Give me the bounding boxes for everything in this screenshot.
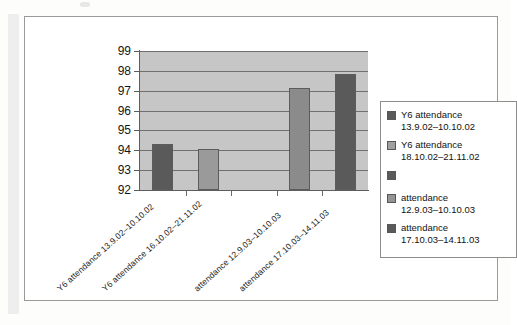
y-axis-tick-label: 92: [109, 184, 131, 196]
gridline: [140, 91, 368, 92]
legend-swatch: [387, 141, 396, 150]
bar: [198, 149, 219, 190]
gridline: [140, 130, 368, 131]
legend-swatch: [387, 224, 396, 233]
legend-item: [387, 169, 516, 180]
scan-speck-artifact: [80, 2, 90, 7]
y-axis-tick-label: 99: [109, 45, 131, 57]
scan-edge-artifact: [8, 14, 19, 314]
chart-figure-frame: 9998979695949392 Y6 attendance 13.9.02–1…: [24, 16, 498, 301]
legend-swatch: [387, 171, 396, 180]
y-axis-tick-label: 93: [109, 164, 131, 176]
legend-label-line2: 17.10.03–14.11.03: [401, 234, 480, 246]
y-axis-tick: [134, 51, 140, 52]
y-axis-tick-labels: 9998979695949392: [107, 17, 131, 217]
gridline: [140, 170, 368, 171]
y-axis-tick: [134, 111, 140, 112]
legend-label-line2: 18.10.02–21.11.02: [401, 151, 480, 163]
legend-label-line2: 12.9.03–10.10.03: [401, 204, 475, 216]
legend-label: attendance12.9.03–10.10.03: [401, 192, 475, 215]
y-axis-tick: [134, 91, 140, 92]
y-axis-tick: [134, 130, 140, 131]
x-axis-tick: [186, 191, 187, 196]
bar: [152, 144, 173, 190]
y-axis-tick-label: 96: [109, 105, 131, 117]
legend-swatch: [387, 194, 396, 203]
legend-label: Y6 attendance18.10.02–21.11.02: [401, 139, 480, 162]
x-axis-tick: [322, 191, 323, 196]
legend-swatch: [387, 111, 396, 120]
x-axis-tick: [231, 191, 232, 196]
gridline: [140, 111, 368, 112]
x-axis-category-label: attendance 17.10.03–14.11.03: [237, 207, 331, 293]
y-axis-tick: [134, 150, 140, 151]
chart-legend: Y6 attendance13.9.02–10.10.02Y6 attendan…: [380, 101, 517, 258]
y-axis-tick-label: 97: [109, 85, 131, 97]
legend-label: attendance17.10.03–14.11.03: [401, 222, 480, 245]
gridline: [140, 150, 368, 151]
y-axis-tick: [134, 71, 140, 72]
legend-item: attendance17.10.03–14.11.03: [387, 222, 516, 245]
legend-label-line2: 13.9.02–10.10.02: [401, 121, 475, 133]
bar: [289, 88, 310, 190]
x-axis-category-label: attendance 12.9.03–10.10.03: [192, 210, 283, 293]
gridline: [140, 51, 368, 52]
legend-label: Y6 attendance13.9.02–10.10.02: [401, 109, 475, 132]
x-axis-line: [139, 190, 369, 191]
y-axis-tick-label: 95: [109, 124, 131, 136]
legend-item: Y6 attendance18.10.02–21.11.02: [387, 139, 516, 162]
x-axis-tick: [277, 191, 278, 196]
bar: [335, 74, 356, 190]
y-axis-tick: [134, 170, 140, 171]
legend-item: Y6 attendance13.9.02–10.10.02: [387, 109, 516, 132]
y-axis-tick-label: 98: [109, 65, 131, 77]
y-axis-tick: [134, 190, 140, 191]
legend-item: attendance12.9.03–10.10.03: [387, 192, 516, 215]
y-axis-tick-label: 94: [109, 144, 131, 156]
gridline: [140, 71, 368, 72]
